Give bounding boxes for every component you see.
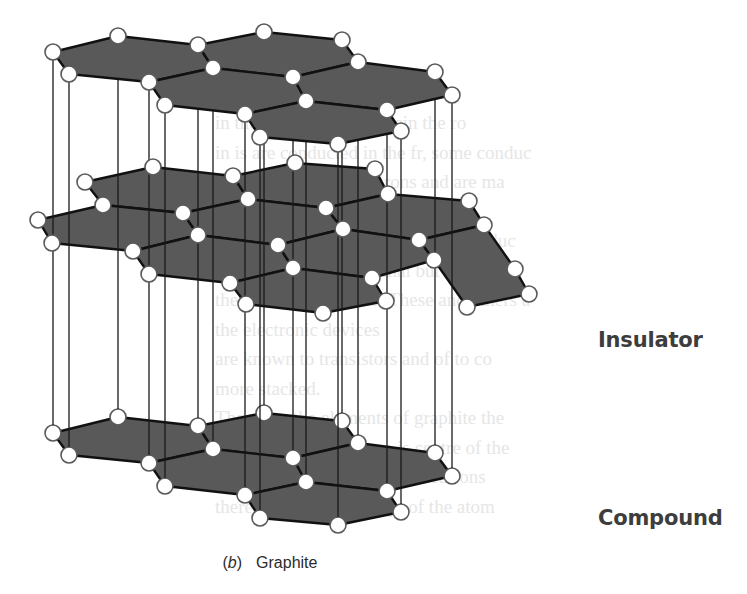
carbon-atom: [157, 97, 173, 113]
carbon-atom: [141, 266, 157, 282]
carbon-atom: [379, 483, 395, 499]
carbon-atom: [427, 445, 443, 461]
figure-page: in the Universe as wherein the ro in is …: [0, 0, 747, 594]
carbon-atom: [190, 418, 206, 434]
carbon-atom: [252, 510, 268, 526]
carbon-atom: [110, 28, 126, 44]
carbon-atom: [256, 24, 272, 40]
carbon-atom: [110, 409, 126, 425]
carbon-atom: [157, 478, 173, 494]
carbon-atom: [222, 275, 238, 291]
sidebar-term-compound: Compound: [598, 506, 723, 530]
carbon-atom: [256, 405, 272, 421]
carbon-atom: [287, 155, 303, 171]
carbon-atom: [190, 227, 206, 243]
sidebar-term-insulator: Insulator: [598, 328, 703, 352]
carbon-atom: [61, 66, 77, 82]
carbon-atom: [521, 286, 537, 302]
carbon-atom: [334, 32, 350, 48]
caption-title: Graphite: [256, 554, 317, 571]
carbon-atom: [238, 296, 254, 312]
carbon-atom: [315, 305, 331, 321]
carbon-atom: [411, 232, 427, 248]
middle-layer-sheets: [38, 163, 529, 313]
carbon-atom: [367, 161, 383, 177]
carbon-atom: [318, 200, 334, 216]
carbon-atom: [334, 413, 350, 429]
figure-caption: (b)Graphite: [0, 554, 540, 572]
carbon-atom: [270, 237, 286, 253]
graphite-structure-diagram: [0, 0, 747, 594]
carbon-atom: [45, 425, 61, 441]
carbon-atom: [45, 44, 61, 60]
carbon-atom: [30, 212, 46, 228]
carbon-atom: [237, 487, 253, 503]
carbon-atom: [237, 106, 253, 122]
carbon-atom: [285, 450, 301, 466]
carbon-atom: [77, 174, 93, 190]
carbon-atom: [393, 123, 409, 139]
carbon-atom: [225, 168, 241, 184]
carbon-atom: [335, 221, 351, 237]
carbon-atom: [125, 243, 141, 259]
carbon-atom: [95, 197, 111, 213]
carbon-atom: [205, 60, 221, 76]
carbon-atom: [350, 54, 366, 70]
carbon-atom: [240, 191, 256, 207]
carbon-atom: [44, 235, 60, 251]
carbon-atom: [476, 217, 492, 233]
carbon-atom: [330, 517, 346, 533]
carbon-atom: [427, 64, 443, 80]
carbon-atom: [459, 299, 475, 315]
top-layer-sheets: [53, 32, 452, 144]
carbon-atom: [379, 102, 395, 118]
carbon-atom: [393, 504, 409, 520]
carbon-atom: [175, 205, 191, 221]
carbon-atom: [141, 455, 157, 471]
carbon-atom: [285, 69, 301, 85]
caption-part-label: (b): [223, 554, 243, 571]
carbon-atom: [61, 447, 77, 463]
carbon-atom: [330, 136, 346, 152]
carbon-atom: [378, 293, 394, 309]
carbon-atom: [444, 468, 460, 484]
carbon-atom: [298, 93, 314, 109]
carbon-atom: [507, 261, 523, 277]
carbon-atom: [252, 129, 268, 145]
carbon-atom: [350, 435, 366, 451]
carbon-atom: [145, 159, 161, 175]
carbon-atom: [190, 37, 206, 53]
carbon-atom: [298, 474, 314, 490]
carbon-atom: [364, 270, 380, 286]
bottom-layer-sheets: [53, 413, 452, 525]
carbon-atom: [141, 74, 157, 90]
carbon-atom: [205, 441, 221, 457]
carbon-atom: [380, 186, 396, 202]
carbon-atom: [426, 252, 442, 268]
carbon-atom: [444, 87, 460, 103]
carbon-atom: [461, 193, 477, 209]
carbon-atom: [285, 260, 301, 276]
